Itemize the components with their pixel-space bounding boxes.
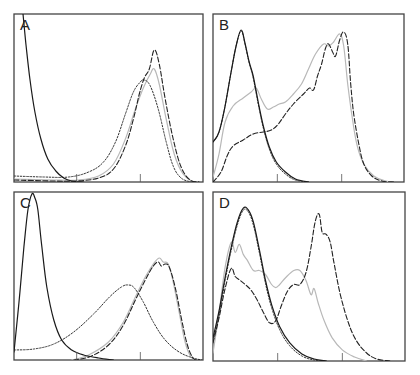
panel-b: B xyxy=(213,14,404,182)
panel-c: C xyxy=(14,192,203,360)
panel-label: C xyxy=(20,194,31,211)
panel-a: A xyxy=(14,14,203,182)
panel-label: A xyxy=(20,16,30,33)
plot-frame xyxy=(213,14,404,182)
plot-frame xyxy=(14,192,203,360)
panel-label: D xyxy=(219,194,230,211)
panel-label: B xyxy=(219,16,229,33)
panel-d: D xyxy=(213,192,405,361)
plot-frame xyxy=(213,192,405,361)
figure-canvas: A B C D xyxy=(0,0,420,375)
